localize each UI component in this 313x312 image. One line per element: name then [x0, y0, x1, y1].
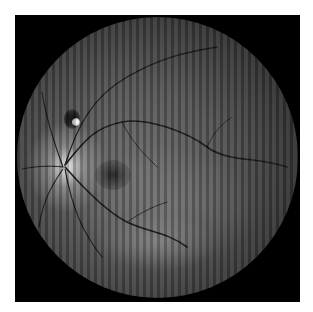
- image-frame: [15, 15, 300, 302]
- stripe-artifact-overlay: [17, 17, 298, 298]
- fundus-image: [17, 17, 298, 298]
